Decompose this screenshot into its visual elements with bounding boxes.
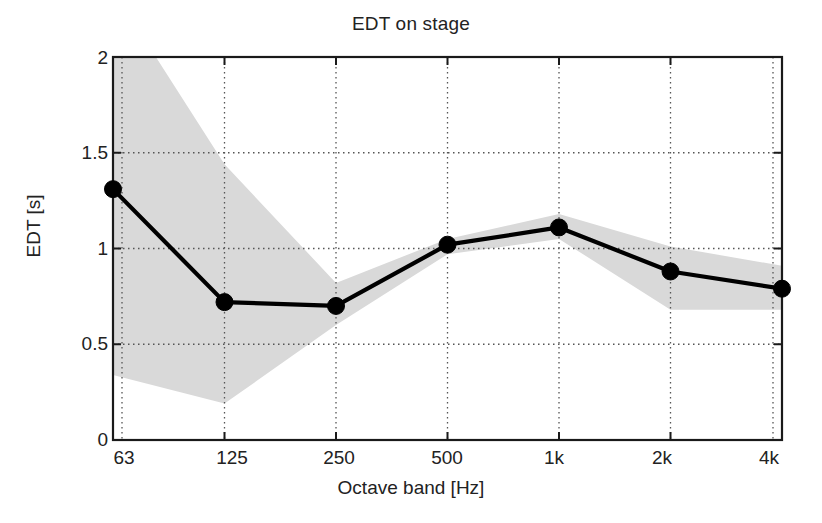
plot-area xyxy=(0,0,822,523)
chart-figure: EDT on stage EDT [s] Octave band [Hz] 2 … xyxy=(0,0,822,523)
